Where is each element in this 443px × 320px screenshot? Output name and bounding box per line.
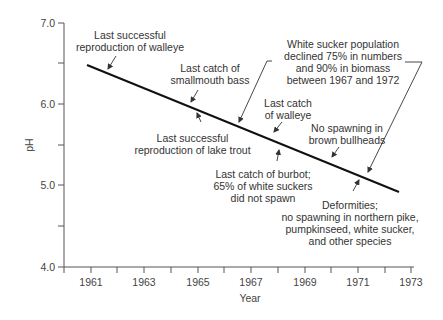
y-tick-label: 6.0	[40, 98, 55, 110]
annotation-line: Last successful	[65, 29, 195, 41]
annotation-walleye-catch: Last catch of walleye	[258, 97, 318, 121]
annotation-brown-bullheads: No spawning in brown bullheads	[302, 122, 392, 146]
x-tick-label: 1971	[346, 276, 370, 288]
annotation-line: between 1967 and 1972	[278, 74, 408, 86]
annotation-line: reproduction of walleye	[65, 41, 195, 53]
x-tick-label: 1965	[186, 276, 210, 288]
y-axis	[58, 23, 64, 267]
annotation-line: and 90% in biomass	[278, 62, 408, 74]
annotation-line: Deformities;	[275, 199, 425, 211]
annotation-lake-trout: Last successful reproduction of lake tro…	[130, 132, 255, 156]
y-tick-label: 5.0	[40, 179, 55, 191]
annotation-line: of walleye	[258, 109, 318, 121]
x-tick-label: 1969	[293, 276, 317, 288]
annotation-line: brown bullheads	[302, 134, 392, 146]
x-axis	[64, 267, 414, 273]
annotation-line: smallmouth bass	[160, 74, 260, 86]
annotation-line: Last catch of burbot;	[208, 168, 318, 180]
x-tick-label: 1963	[132, 276, 156, 288]
annotation-white-sucker-decline: White sucker population declined 75% in …	[278, 38, 408, 86]
y-tick-label: 7.0	[40, 17, 55, 29]
x-axis-title: Year	[239, 292, 261, 304]
x-tick-label: 1973	[399, 276, 423, 288]
annotation-line: Last successful	[130, 132, 255, 144]
annotation-line: No spawning in	[302, 122, 392, 134]
annotation-line: 65% of white suckers	[208, 180, 318, 192]
annotation-line: Last catch of	[160, 62, 260, 74]
annotation-line: reproduction of lake trout	[130, 144, 255, 156]
y-tick-label: 4.0	[40, 261, 55, 273]
annotation-smallmouth-bass: Last catch of smallmouth bass	[160, 62, 260, 86]
x-tick-label: 1967	[239, 276, 263, 288]
x-tick-label: 1961	[79, 276, 103, 288]
annotation-line: White sucker population	[278, 38, 408, 50]
annotation-line: pumpkinseed, white sucker,	[275, 223, 425, 235]
annotation-deformities: Deformities; no spawning in northern pik…	[275, 199, 425, 247]
annotation-line: no spawning in northern pike,	[275, 211, 425, 223]
annotation-walleye-reproduction: Last successful reproduction of walleye	[65, 29, 195, 53]
y-axis-title: pH	[23, 138, 35, 151]
annotation-line: declined 75% in numbers	[278, 50, 408, 62]
annotation-line: and other species	[275, 235, 425, 247]
annotation-line: Last catch	[258, 97, 318, 109]
